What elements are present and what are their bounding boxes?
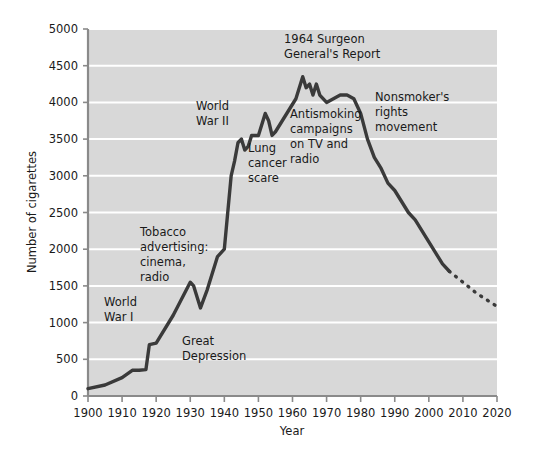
annotation-line: radio	[140, 270, 169, 284]
ytick-label-4500: 4500	[49, 59, 78, 73]
chart-figure: 0500100015002000250030003500400045005000…	[0, 0, 538, 454]
xtick-label-1920: 1920	[142, 406, 171, 420]
annotation-line: cancer	[248, 156, 287, 170]
ytick-label-3500: 3500	[49, 132, 78, 146]
annotation-line: scare	[248, 171, 279, 185]
annotation-line: Tobacco	[139, 225, 186, 239]
xtick-label-1940: 1940	[210, 406, 239, 420]
annotation-line: radio	[290, 152, 319, 166]
xtick-label-1960: 1960	[278, 406, 307, 420]
xtick-label-1950: 1950	[244, 406, 273, 420]
annotation-world-war-i: WorldWar I	[104, 295, 137, 324]
y-axis-title: Number of cigarettes	[25, 151, 39, 273]
xtick-label-1910: 1910	[107, 406, 136, 420]
annotation-line: on TV and	[290, 137, 348, 151]
ytick-label-1000: 1000	[49, 316, 78, 330]
ytick-label-4000: 4000	[49, 95, 78, 109]
annotation-line: General's Report	[284, 47, 381, 61]
xtick-label-1990: 1990	[380, 406, 409, 420]
cigarette-consumption-line-chart: 0500100015002000250030003500400045005000…	[0, 0, 538, 454]
ytick-label-500: 500	[56, 352, 78, 366]
xtick-label-2010: 2010	[448, 406, 477, 420]
annotation-world-war-ii: WorldWar II	[196, 99, 229, 128]
ytick-label-3000: 3000	[49, 169, 78, 183]
annotation-line: Antismoking	[290, 107, 362, 121]
annotation-line: Depression	[182, 349, 246, 363]
ytick-label-5000: 5000	[49, 22, 78, 36]
annotation-line: War I	[104, 310, 133, 324]
xtick-label-1970: 1970	[312, 406, 341, 420]
annotation-line: Nonsmoker's	[375, 90, 449, 104]
ytick-label-2500: 2500	[49, 206, 78, 220]
ytick-label-0: 0	[71, 389, 78, 403]
annotation-line: 1964 Surgeon	[284, 32, 365, 46]
ytick-label-1500: 1500	[49, 279, 78, 293]
annotation-line: campaigns	[290, 122, 353, 136]
annotation-line: Great	[182, 334, 215, 348]
ytick-label-2000: 2000	[49, 242, 78, 256]
annotation-line: World	[104, 295, 137, 309]
xtick-label-1930: 1930	[176, 406, 205, 420]
annotation-line: advertising:	[140, 240, 208, 254]
annotation-line: rights	[375, 105, 408, 119]
annotation-line: World	[196, 99, 229, 113]
x-axis-title: Year	[279, 424, 305, 438]
annotation-line: movement	[375, 120, 438, 134]
xtick-label-1980: 1980	[346, 406, 375, 420]
annotation-line: Lung	[248, 141, 276, 155]
xtick-label-1900: 1900	[73, 406, 102, 420]
annotation-line: cinema,	[140, 255, 186, 269]
xtick-label-2020: 2020	[482, 406, 511, 420]
xtick-label-2000: 2000	[414, 406, 443, 420]
annotation-line: War II	[196, 114, 229, 128]
